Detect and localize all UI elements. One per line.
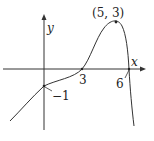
y-axis-label: y [46, 21, 54, 35]
x-intercept-6-leader [125, 70, 129, 78]
x-axis-label: x [131, 55, 138, 69]
peak-point [115, 21, 118, 24]
y-intercept-leader [45, 87, 52, 91]
function-curve [10, 21, 134, 126]
x-intercept-point-6 [128, 68, 130, 70]
y-intercept-point [43, 85, 46, 88]
x-axis-arrow-icon [140, 67, 146, 72]
x-intercept-3-label: 3 [79, 73, 87, 87]
x-intercept-point-3 [81, 68, 83, 70]
y-axis-arrow-icon [42, 14, 47, 20]
x-intercept-6-label: 6 [116, 77, 124, 91]
y-intercept-label: −1 [52, 89, 70, 103]
function-graph: y x (5, 3) −1 3 6 [0, 0, 154, 141]
peak-label: (5, 3) [92, 6, 124, 20]
